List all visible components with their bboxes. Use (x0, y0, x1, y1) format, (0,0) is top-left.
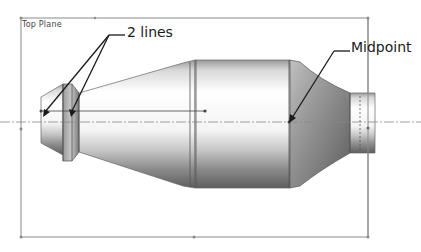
graphics-viewport[interactable] (0, 0, 421, 252)
revolved-part[interactable] (41, 60, 375, 188)
callout-two-lines: 2 lines (127, 24, 173, 40)
center-cylinder[interactable] (195, 60, 290, 188)
right-shaft[interactable] (350, 93, 375, 153)
callout-midpoint: Midpoint (351, 39, 412, 55)
plane-label: Top Plane (22, 20, 62, 29)
taper-section[interactable] (79, 60, 195, 188)
shaft-point[interactable] (367, 127, 370, 130)
right-cone[interactable] (290, 60, 350, 188)
ring[interactable] (63, 84, 79, 161)
